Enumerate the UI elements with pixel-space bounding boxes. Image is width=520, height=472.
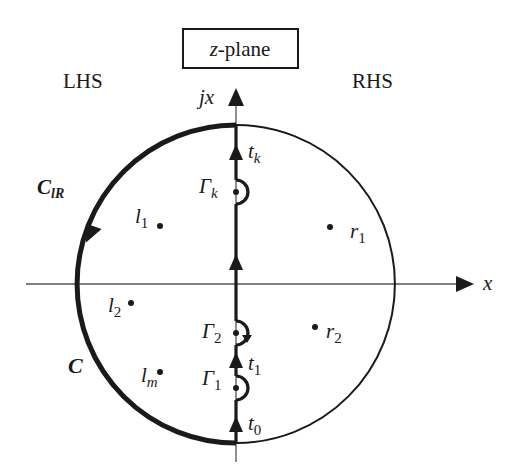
x-axis-label: x	[482, 271, 493, 295]
pole-l1	[157, 223, 163, 229]
t1-arrow-icon	[229, 352, 243, 368]
pole-lm	[157, 369, 163, 375]
lhs-label: LHS	[63, 69, 103, 93]
t0-label: t0	[248, 411, 261, 438]
lm-label: lm	[141, 363, 158, 390]
clr-label: ClR	[37, 175, 64, 201]
pole-gamma-2	[233, 330, 239, 336]
gamma-k-label: Γk	[198, 174, 218, 201]
tk-label: tk	[248, 139, 261, 166]
gamma-1-label: Γ1	[201, 366, 221, 393]
r2-label: r2	[326, 319, 342, 346]
title-box: z-plane	[183, 29, 298, 68]
svg-text:z-plane: z-plane	[209, 37, 271, 61]
x-axis: x	[26, 271, 493, 295]
pole-gamma-k	[233, 189, 239, 195]
t0-arrow-icon	[229, 416, 243, 432]
pole-r2	[312, 324, 318, 330]
axis-mid-arrow-icon	[229, 254, 243, 270]
jx-axis-arrow-icon	[228, 88, 244, 106]
x-axis-arrow-icon	[456, 276, 474, 292]
l2-label: l2	[108, 293, 121, 320]
pole-gamma-1	[233, 385, 239, 391]
tk-arrow-icon	[229, 144, 243, 160]
l1-label: l1	[135, 204, 148, 231]
pole-r1	[327, 224, 333, 230]
title-prefix: z	[209, 37, 218, 61]
t1-label: t1	[248, 351, 261, 378]
z-plane-diagram: z-plane LHS RHS x jx ClR C	[0, 0, 520, 472]
gamma-2-label: Γ2	[201, 319, 221, 346]
r1-label: r1	[350, 219, 366, 246]
jx-axis-label: jx	[196, 85, 215, 109]
title-suffix: -plane	[218, 37, 270, 61]
contour-c-label: C	[68, 353, 83, 378]
rhs-label: RHS	[352, 69, 393, 93]
pole-l2	[128, 300, 134, 306]
